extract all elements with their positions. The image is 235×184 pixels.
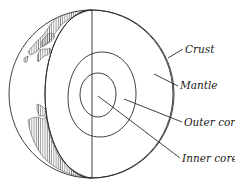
inner-core	[80, 73, 116, 117]
leader-crust	[168, 49, 183, 58]
globe-outline	[9, 10, 173, 178]
leader-mantle	[154, 74, 178, 86]
mantle-cut-face	[45, 10, 174, 178]
label-inner-core: Inner core	[181, 152, 235, 164]
label-mantle: Mantle	[179, 79, 218, 91]
earth-layers-diagram: Crust Mantle Outer core Inner core	[0, 0, 235, 184]
outer-core	[68, 52, 136, 137]
label-outer-core: Outer core	[184, 116, 235, 128]
label-crust: Crust	[185, 43, 215, 55]
